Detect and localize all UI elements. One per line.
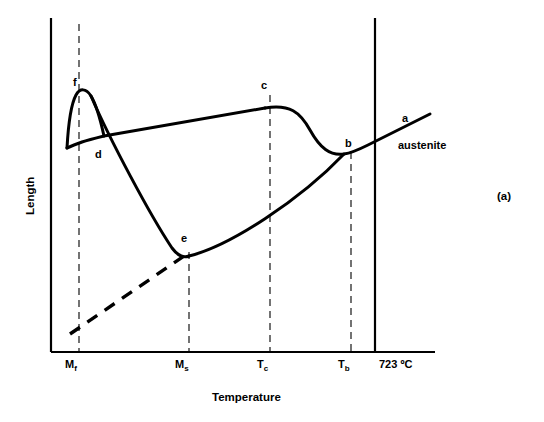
annotation-austenite: austenite	[398, 139, 446, 151]
upper-curve-d-to-c	[67, 108, 265, 148]
x-tick-label-tb: Tb	[338, 358, 350, 373]
x-tick-ms-sub: s	[184, 364, 188, 373]
x-tick-tb-sub: b	[345, 364, 350, 373]
x-tick-label-ms: Ms	[175, 358, 189, 373]
x-tick-mf-base: M	[65, 358, 74, 370]
point-label-b: b	[345, 137, 352, 149]
x-axis-title: Temperature	[212, 391, 281, 403]
x-tick-label-eutectoid: 723 ºC	[379, 358, 412, 370]
dashed-extrapolation	[70, 256, 184, 334]
point-label-a: a	[402, 112, 408, 124]
panel-tag: (a)	[497, 190, 511, 202]
point-label-f: f	[73, 76, 77, 88]
curve-e-to-b	[189, 154, 344, 256]
point-label-d: d	[95, 148, 102, 160]
point-label-e: e	[181, 232, 187, 244]
y-axis-title: Length	[24, 177, 36, 215]
x-tick-label-mf: Mf	[65, 358, 77, 373]
x-tick-ms-base: M	[175, 358, 184, 370]
x-tick-mf-sub: f	[74, 364, 77, 373]
chart-container: a b c d e f austenite Mf Ms Tc Tb 723 ºC…	[0, 0, 544, 422]
chart-svg	[0, 0, 544, 422]
x-tick-tc-base: T	[257, 358, 264, 370]
x-tick-tc-sub: c	[264, 364, 268, 373]
curve-f-to-e	[91, 96, 189, 257]
x-tick-tb-base: T	[338, 358, 345, 370]
peak-f-curve	[67, 90, 104, 148]
point-label-c: c	[261, 79, 267, 91]
x-tick-label-tc: Tc	[257, 358, 268, 373]
